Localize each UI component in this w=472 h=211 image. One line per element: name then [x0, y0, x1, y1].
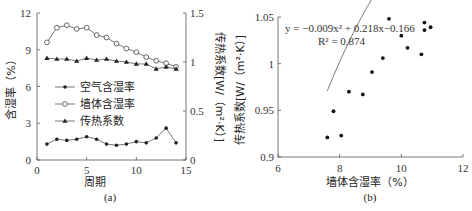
data-point — [105, 142, 109, 146]
data-point — [84, 55, 89, 59]
x-tick-label: 8 — [337, 162, 343, 174]
y2-tick-label: 0 — [190, 154, 196, 166]
data-point — [74, 27, 79, 32]
x-tick-label: 0 — [34, 164, 40, 176]
data-point — [154, 58, 159, 63]
chart-canvas: 05101503691200.511.5空气含湿率墙体含湿率传热系数周期(a)含… — [0, 0, 472, 211]
data-point — [419, 52, 423, 56]
data-point — [94, 33, 99, 38]
chart-b: 6810120.90.9511.05y = −0.009x² + 0.218x−… — [234, 0, 469, 204]
trend-equation: y = −0.009x² + 0.218x−0.166 — [285, 22, 415, 34]
y-tick-label: 0.95 — [255, 104, 275, 116]
y-tick-label: 9 — [26, 44, 32, 56]
data-point — [124, 46, 129, 51]
data-point — [361, 93, 365, 97]
y-tick-label: 1.05 — [255, 11, 275, 23]
y2-tick-label: 1.5 — [190, 7, 204, 19]
data-point — [325, 136, 329, 140]
y-tick-label: 0 — [26, 154, 32, 166]
x-axis-label: 墙体含湿率（%） — [326, 175, 413, 189]
data-point — [84, 25, 89, 30]
y-axis-label: 传热系数[W/（m²·K）] — [234, 35, 247, 145]
data-point — [45, 40, 50, 45]
data-point — [104, 35, 109, 40]
data-point — [387, 17, 391, 21]
caption-b: (b) — [364, 191, 377, 204]
r-squared: R² = 0.874 — [318, 35, 366, 47]
data-point — [54, 25, 59, 30]
legend-label: 墙体含湿率 — [80, 97, 135, 111]
data-point — [55, 137, 59, 141]
data-point — [423, 21, 427, 25]
data-point — [339, 134, 343, 138]
data-point — [104, 56, 109, 60]
legend-marker — [63, 85, 67, 89]
legend-label: 传热系数 — [80, 115, 124, 128]
y-tick-label: 12 — [20, 7, 31, 19]
data-point — [115, 144, 119, 148]
y2-axis-label: 传热系数[W/（m²·K）] — [213, 32, 226, 142]
data-point — [75, 137, 79, 141]
x-tick-label: 12 — [458, 162, 469, 174]
data-point — [347, 90, 351, 94]
data-point — [406, 46, 410, 50]
y-tick-label: 3 — [26, 117, 32, 129]
data-point — [134, 50, 139, 55]
data-point — [45, 142, 49, 146]
data-point — [154, 136, 158, 140]
data-point — [95, 137, 99, 141]
y2-tick-label: 1 — [190, 56, 196, 68]
data-point — [125, 142, 129, 146]
y-tick-label: 0.9 — [260, 151, 274, 163]
data-point — [44, 55, 49, 59]
data-point — [423, 28, 427, 32]
legend-label: 空气含湿率 — [80, 80, 135, 94]
x-tick-label: 6 — [275, 162, 281, 174]
caption-a: (a) — [104, 191, 117, 204]
x-axis-label: 周期 — [84, 176, 106, 189]
x-tick-label: 10 — [131, 164, 143, 176]
data-point — [85, 135, 89, 139]
data-point — [65, 139, 69, 143]
data-point — [332, 109, 336, 113]
data-point — [64, 23, 69, 28]
legend-marker — [63, 102, 68, 107]
data-point — [135, 140, 139, 144]
data-point — [429, 25, 433, 29]
data-point — [381, 56, 385, 60]
data-point — [144, 141, 148, 145]
chart-a: 05101503691200.511.5空气含湿率墙体含湿率传热系数周期(a)含… — [4, 7, 226, 204]
y-tick-label: 1 — [269, 58, 275, 70]
data-point — [144, 55, 149, 60]
data-point — [164, 126, 168, 130]
data-point — [114, 41, 119, 46]
x-tick-label: 10 — [396, 162, 408, 174]
data-point — [399, 34, 403, 38]
x-tick-label: 5 — [84, 164, 90, 176]
y-axis-label: 含湿率（%） — [4, 54, 18, 119]
data-point — [174, 141, 178, 145]
y2-tick-label: 0.5 — [190, 105, 204, 117]
y-tick-label: 6 — [26, 81, 32, 93]
data-point — [370, 70, 374, 74]
